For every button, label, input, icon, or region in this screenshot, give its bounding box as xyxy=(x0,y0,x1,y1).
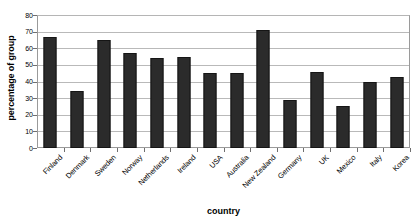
bar-slot xyxy=(37,15,64,148)
bar-slot xyxy=(197,15,224,148)
x-tickmark xyxy=(303,148,304,152)
x-tick-label: Norway xyxy=(120,153,144,177)
x-tick-label: Australia xyxy=(224,153,250,179)
x-tick-label: Korea xyxy=(390,153,410,173)
x-tickmark xyxy=(357,148,358,152)
x-tick-label: USA xyxy=(207,153,224,170)
x-tickmark xyxy=(64,148,65,152)
y-tick-label: 20 xyxy=(3,111,33,118)
x-tick-label: Ireland xyxy=(175,153,197,175)
x-tickmark xyxy=(117,148,118,152)
y-tick-label: 10 xyxy=(3,128,33,135)
bar xyxy=(177,57,190,148)
x-tickmark xyxy=(410,148,411,152)
x-tickmark xyxy=(330,148,331,152)
x-tick-label: Sweden xyxy=(92,153,117,178)
x-axis-labels: FinlandDenmarkSwedenNorwayNetherlandsIre… xyxy=(37,153,410,201)
bar xyxy=(364,82,377,149)
x-tick-label: Italy xyxy=(368,153,384,169)
bar xyxy=(70,91,83,148)
x-tickmark xyxy=(144,148,145,152)
bar xyxy=(284,100,297,148)
bar-slot xyxy=(144,15,171,148)
y-axis-ticks: 01020304050607080 xyxy=(0,0,33,224)
x-tickmark xyxy=(277,148,278,152)
bar xyxy=(150,58,163,148)
bar xyxy=(310,72,323,148)
y-tick-label: 0 xyxy=(3,145,33,152)
x-tickmark xyxy=(250,148,251,152)
x-tickmark xyxy=(383,148,384,152)
x-tick-label: Mexico xyxy=(334,153,357,176)
bar-slot xyxy=(303,15,330,148)
bar-slot xyxy=(383,15,410,148)
x-tick-label: Finland xyxy=(41,153,64,176)
x-tickmark xyxy=(224,148,225,152)
x-tickmark xyxy=(170,148,171,152)
x-tickmark xyxy=(90,148,91,152)
bar-slot xyxy=(64,15,91,148)
y-tick-label: 40 xyxy=(3,78,33,85)
bar-slot xyxy=(224,15,251,148)
bar-slot xyxy=(277,15,304,148)
x-tick-label: Denmark xyxy=(63,153,90,180)
y-tick-label: 70 xyxy=(3,28,33,35)
bar xyxy=(337,106,350,148)
y-tick-label: 30 xyxy=(3,95,33,102)
bar xyxy=(204,73,217,148)
bar-slot xyxy=(330,15,357,148)
x-axis-title: country xyxy=(37,205,410,217)
bar-chart: percentage of group 01020304050607080 Fi… xyxy=(0,0,419,224)
bar-slot xyxy=(250,15,277,148)
bars-container xyxy=(37,15,410,148)
y-tick-label: 80 xyxy=(3,12,33,19)
bar xyxy=(124,53,137,148)
bar xyxy=(257,30,270,148)
bar xyxy=(44,37,57,148)
bar xyxy=(390,77,403,148)
bar xyxy=(97,40,110,148)
x-tick-label: UK xyxy=(317,153,331,167)
x-tick-label: Germany xyxy=(276,153,304,181)
y-tick-label: 50 xyxy=(3,61,33,68)
x-tickmark xyxy=(197,148,198,152)
bar-slot xyxy=(357,15,384,148)
bar xyxy=(230,73,243,148)
bar-slot xyxy=(90,15,117,148)
bar-slot xyxy=(170,15,197,148)
y-tick-label: 60 xyxy=(3,45,33,52)
bar-slot xyxy=(117,15,144,148)
